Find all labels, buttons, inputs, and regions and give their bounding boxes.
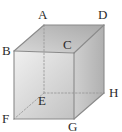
vertex-label-g: G [68,120,77,132]
vertex-label-h: H [109,86,118,99]
cube-figure: ABCDEFGH [0,0,122,132]
vertex-label-a: A [38,8,47,21]
vertex-label-e: E [38,94,46,107]
vertex-label-c: C [63,38,72,51]
vertex-label-b: B [2,44,11,57]
vertex-label-d: D [98,8,107,21]
vertex-label-f: F [2,112,9,125]
